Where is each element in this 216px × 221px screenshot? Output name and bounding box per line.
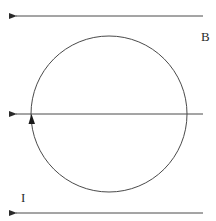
current-label: I bbox=[21, 191, 25, 204]
diagram-canvas bbox=[0, 0, 216, 221]
magnetic-field-label: B bbox=[201, 30, 210, 43]
current-direction-arrow-icon bbox=[29, 114, 36, 124]
